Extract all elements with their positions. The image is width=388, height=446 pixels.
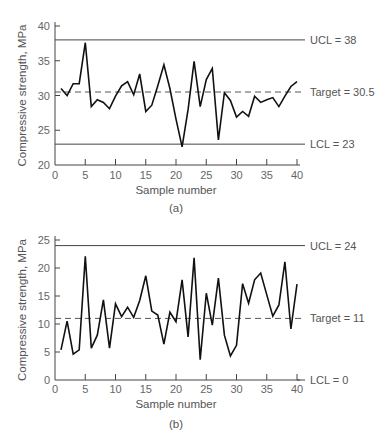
y-tick-label: 0 xyxy=(44,374,50,386)
x-axis-label: Sample number xyxy=(135,184,216,196)
x-tick-label: 10 xyxy=(109,169,121,181)
target-label: Target = 30.5 xyxy=(310,86,375,98)
y-tick-label: 15 xyxy=(38,290,50,302)
ucl-label: UCL = 38 xyxy=(310,34,356,46)
y-tick-label: 20 xyxy=(38,262,50,274)
x-tick-label: 25 xyxy=(200,169,212,181)
lcl-label: LCL = 23 xyxy=(310,138,355,150)
x-tick-label: 40 xyxy=(291,169,303,181)
target-label: Target = 11 xyxy=(310,312,365,324)
x-tick-label: 30 xyxy=(230,383,242,395)
x-tick-label: 25 xyxy=(200,383,212,395)
y-tick-label: 25 xyxy=(38,234,50,246)
chart-panel-b: 05101520250510152025303540UCL = 24Target… xyxy=(16,234,365,430)
y-axis-label: Compressive strength, MPa xyxy=(16,238,28,380)
panel-caption: (b) xyxy=(169,418,183,430)
chart-panel-a: 20253035400510152025303540UCL = 38Target… xyxy=(16,20,375,214)
x-tick-label: 5 xyxy=(82,383,88,395)
y-tick-label: 35 xyxy=(38,55,50,67)
x-tick-label: 40 xyxy=(291,383,303,395)
y-axis-label: Compressive strength, MPa xyxy=(16,24,28,166)
x-tick-label: 15 xyxy=(140,383,152,395)
x-tick-label: 35 xyxy=(261,383,273,395)
x-tick-label: 15 xyxy=(140,169,152,181)
y-tick-label: 25 xyxy=(38,124,50,136)
y-tick-label: 10 xyxy=(38,318,50,330)
ucl-label: UCL = 24 xyxy=(310,240,356,252)
x-tick-label: 5 xyxy=(82,169,88,181)
y-tick-label: 5 xyxy=(44,346,50,358)
x-tick-label: 10 xyxy=(109,383,121,395)
y-tick-label: 20 xyxy=(38,159,50,171)
y-tick-label: 40 xyxy=(38,20,50,32)
x-tick-label: 35 xyxy=(261,169,273,181)
x-tick-label: 0 xyxy=(52,169,58,181)
control-charts: 20253035400510152025303540UCL = 38Target… xyxy=(0,0,388,446)
x-tick-label: 30 xyxy=(230,169,242,181)
lcl-label: LCL = 0 xyxy=(310,374,348,386)
y-tick-label: 30 xyxy=(38,90,50,102)
data-series-line xyxy=(61,43,297,147)
x-tick-label: 20 xyxy=(170,383,182,395)
x-tick-label: 0 xyxy=(52,383,58,395)
data-series-line xyxy=(61,256,297,360)
panel-caption: (a) xyxy=(169,202,183,214)
x-axis-label: Sample number xyxy=(135,398,216,410)
x-tick-label: 20 xyxy=(170,169,182,181)
